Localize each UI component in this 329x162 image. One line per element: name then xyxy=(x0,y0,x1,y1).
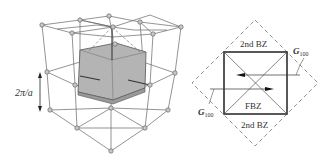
lattice-spacing-arrow xyxy=(38,72,42,112)
g100-top-label: G100 xyxy=(293,46,309,57)
first-brillouin-zone-cube xyxy=(78,27,150,104)
second-bz-bottom-label: 2nd BZ xyxy=(241,120,268,130)
reciprocal-vector-bottom xyxy=(209,87,274,104)
brillouin-zone-figure: 2π/a 2nd BZ 2nd BZ FBZ G100 G100 xyxy=(0,0,329,162)
lattice-spacing-label: 2π/a xyxy=(15,87,33,98)
second-bz-top-label: 2nd BZ xyxy=(240,39,267,49)
g100-bottom-label: G100 xyxy=(198,107,214,118)
fbz-label: FBZ xyxy=(245,101,262,111)
